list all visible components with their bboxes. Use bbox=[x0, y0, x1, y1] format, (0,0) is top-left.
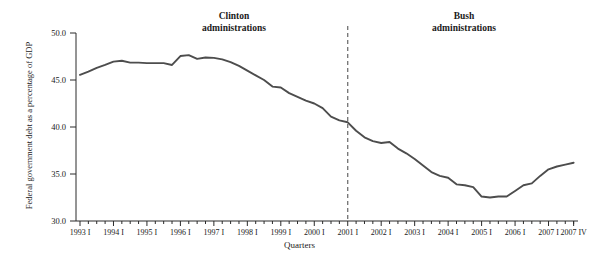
bush-annotation-line2: administrations bbox=[398, 22, 530, 34]
x-tick-label: 1994 I bbox=[103, 228, 124, 237]
x-tick-label: 1993 I bbox=[70, 228, 91, 237]
chart-figure: 50.0 45.0 40.0 35.0 30.0 1993 I1994 I199… bbox=[0, 0, 600, 263]
x-tick-label: 1998 I bbox=[237, 228, 258, 237]
y-tick-label: 40.0 bbox=[51, 122, 66, 132]
x-axis-tick-labels: 1993 I1994 I1995 I1996 I1997 I1998 I1999… bbox=[70, 228, 587, 237]
y-axis-ticks bbox=[70, 33, 76, 221]
x-tick-label: 2003 I bbox=[404, 228, 425, 237]
bush-administrations-annotation: Bush administrations bbox=[398, 10, 530, 34]
y-tick-label: 35.0 bbox=[51, 169, 66, 179]
x-tick-label: 2005 I bbox=[471, 228, 492, 237]
x-tick-label: 2004 I bbox=[438, 228, 459, 237]
y-axis-tick-labels: 50.0 45.0 40.0 35.0 30.0 bbox=[51, 28, 66, 226]
debt-gdp-line-chart: 50.0 45.0 40.0 35.0 30.0 1993 I1994 I199… bbox=[0, 0, 600, 263]
debt-series-line bbox=[80, 55, 574, 197]
x-tick-label: 1999 I bbox=[270, 228, 291, 237]
y-tick-label: 30.0 bbox=[51, 216, 66, 226]
bush-annotation-line1: Bush bbox=[398, 10, 530, 22]
clinton-annotation-line1: Clinton bbox=[168, 10, 300, 22]
x-tick-label: 1995 I bbox=[137, 228, 158, 237]
x-tick-label: 2006 I bbox=[505, 228, 526, 237]
y-tick-label: 45.0 bbox=[51, 75, 66, 85]
x-axis-title: Quarters bbox=[284, 240, 315, 250]
y-axis-title: Federal government debt as a percentage … bbox=[24, 31, 35, 221]
x-axis-ticks bbox=[80, 221, 574, 226]
clinton-annotation-line2: administrations bbox=[168, 22, 300, 34]
x-tick-label: 1997 I bbox=[204, 228, 225, 237]
x-tick-label: 2007 I bbox=[538, 228, 559, 237]
x-tick-label: 2007 IV bbox=[560, 228, 587, 237]
x-tick-label: 2000 I bbox=[304, 228, 325, 237]
y-tick-label: 50.0 bbox=[51, 28, 66, 38]
x-tick-label: 2001 I bbox=[337, 228, 358, 237]
clinton-administrations-annotation: Clinton administrations bbox=[168, 10, 300, 34]
x-tick-label: 2002 I bbox=[371, 228, 392, 237]
x-tick-label: 1996 I bbox=[170, 228, 191, 237]
